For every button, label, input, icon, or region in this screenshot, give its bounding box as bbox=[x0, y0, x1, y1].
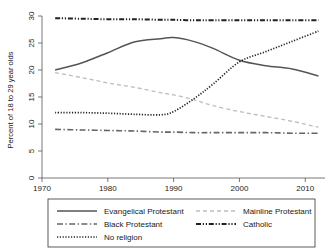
y-axis-ticks: 051015202530 bbox=[27, 11, 42, 180]
x-tick-label: 2010 bbox=[296, 184, 314, 193]
y-tick-label: 0 bbox=[27, 175, 36, 180]
legend-label-mainline-protestant: Mainline Protestant bbox=[243, 207, 312, 216]
y-tick-label: 15 bbox=[27, 92, 36, 101]
legend-label-black-protestant: Black Protestant bbox=[104, 220, 163, 229]
legend-label-catholic: Catholic bbox=[243, 220, 272, 229]
y-tick-label: 25 bbox=[27, 38, 36, 47]
x-tick-label: 2000 bbox=[231, 184, 249, 193]
data-series-group bbox=[55, 18, 318, 133]
y-tick-label: 5 bbox=[27, 148, 36, 153]
series-line-black-protestant bbox=[55, 129, 318, 133]
y-axis-title: Percent of 18 to 29 year olds bbox=[6, 51, 15, 148]
y-tick-label: 30 bbox=[27, 11, 36, 20]
series-line-no-religion bbox=[55, 31, 318, 115]
series-line-mainline-protestant bbox=[55, 73, 318, 128]
x-tick-label: 1980 bbox=[99, 184, 117, 193]
y-tick-label: 20 bbox=[27, 65, 36, 74]
series-line-catholic bbox=[55, 18, 318, 20]
x-axis-ticks: 19701980199020002010 bbox=[33, 178, 315, 193]
series-line-evangelical-protestant bbox=[55, 37, 318, 75]
x-tick-label: 1970 bbox=[33, 184, 51, 193]
legend-label-evangelical-protestant: Evangelical Protestant bbox=[104, 207, 184, 216]
religion-trends-chart: Percent of 18 to 29 year olds 0510152025… bbox=[0, 0, 332, 252]
x-tick-label: 1990 bbox=[165, 184, 183, 193]
y-tick-label: 10 bbox=[27, 119, 36, 128]
legend-label-no-religion: No religion bbox=[104, 233, 142, 242]
